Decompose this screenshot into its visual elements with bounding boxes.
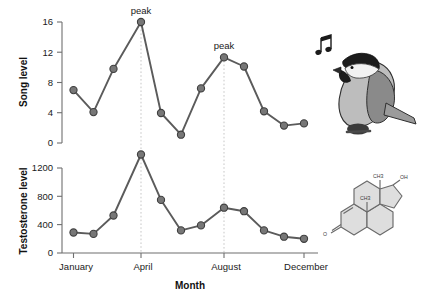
testosterone-point-september bbox=[240, 208, 247, 215]
xtick-label-april: April bbox=[133, 261, 152, 272]
bird-eye bbox=[351, 66, 354, 69]
song-point-september bbox=[240, 63, 247, 70]
testosterone-level-axis-title: Testosterone level bbox=[18, 167, 29, 254]
testosterone-molecule-structure: O CH3 CH3 OH bbox=[323, 173, 408, 237]
song-point-august bbox=[220, 54, 227, 61]
testosterone-ytick-label-0: 0 bbox=[48, 247, 53, 258]
testosterone-point-december bbox=[300, 235, 307, 242]
song-level-series-line bbox=[74, 22, 305, 135]
month-axis-title: Month bbox=[175, 280, 205, 291]
molecule-label-ch3-1: CH3 bbox=[360, 195, 370, 201]
song-point-october bbox=[260, 108, 267, 115]
testosterone-series-line bbox=[74, 155, 305, 239]
testosterone-point-april bbox=[137, 151, 144, 158]
song-ytick-label-8: 8 bbox=[48, 77, 53, 88]
molecule-label-ch3-2: CH3 bbox=[373, 173, 383, 179]
peak-label-august: peak bbox=[214, 40, 235, 51]
molecule-label-oh: OH bbox=[400, 174, 408, 180]
song-ytick-label-16: 16 bbox=[42, 16, 53, 27]
testosterone-point-may bbox=[157, 196, 164, 203]
testosterone-point-october bbox=[260, 227, 267, 234]
song-point-march bbox=[110, 65, 117, 72]
chart-svg: 16 12 8 4 0 Song level bbox=[0, 0, 431, 302]
song-ytick-label-12: 12 bbox=[42, 47, 53, 58]
song-point-february bbox=[90, 109, 97, 116]
song-ytick-label-0: 0 bbox=[48, 137, 53, 148]
bird-tail bbox=[384, 103, 416, 124]
figure-container: 16 12 8 4 0 Song level bbox=[0, 0, 431, 302]
song-point-january bbox=[70, 87, 77, 94]
molecule-hydroxyl-bond bbox=[393, 180, 400, 185]
molecule-label-o: O bbox=[323, 231, 327, 237]
testosterone-ytick-label-400: 400 bbox=[37, 219, 53, 230]
testosterone-point-march bbox=[110, 212, 117, 219]
testosterone-point-june bbox=[177, 227, 184, 234]
chickadee-bird-illustration bbox=[315, 35, 416, 135]
xtick-label-january: January bbox=[59, 261, 93, 272]
testosterone-point-july bbox=[197, 222, 204, 229]
song-level-axis-title: Song level bbox=[18, 57, 29, 107]
song-point-december bbox=[300, 120, 307, 127]
testosterone-point-january bbox=[70, 229, 77, 236]
testosterone-ytick-label-1200: 1200 bbox=[32, 162, 53, 173]
song-point-may bbox=[157, 109, 164, 116]
peak-label-april: peak bbox=[131, 5, 152, 16]
testosterone-point-february bbox=[90, 230, 97, 237]
testosterone-point-august bbox=[220, 204, 227, 211]
song-level-panel: 16 12 8 4 0 Song level bbox=[18, 5, 308, 148]
bird-perch bbox=[347, 131, 370, 132]
song-point-november bbox=[280, 122, 287, 129]
testosterone-ytick-label-800: 800 bbox=[37, 191, 53, 202]
song-point-july bbox=[197, 85, 204, 92]
music-note-icon bbox=[315, 35, 332, 56]
testosterone-point-november bbox=[280, 233, 287, 240]
song-ytick-label-4: 4 bbox=[48, 107, 53, 118]
testosterone-level-panel: 1200 800 400 0 Testosterone level Januar… bbox=[18, 151, 328, 291]
xtick-label-august: August bbox=[211, 261, 241, 272]
xtick-label-december: December bbox=[284, 261, 328, 272]
song-point-april bbox=[137, 18, 144, 25]
bird-beak bbox=[333, 67, 341, 74]
song-level-markers bbox=[70, 18, 308, 138]
song-point-june bbox=[177, 131, 184, 138]
molecule-ring-d bbox=[380, 185, 402, 208]
